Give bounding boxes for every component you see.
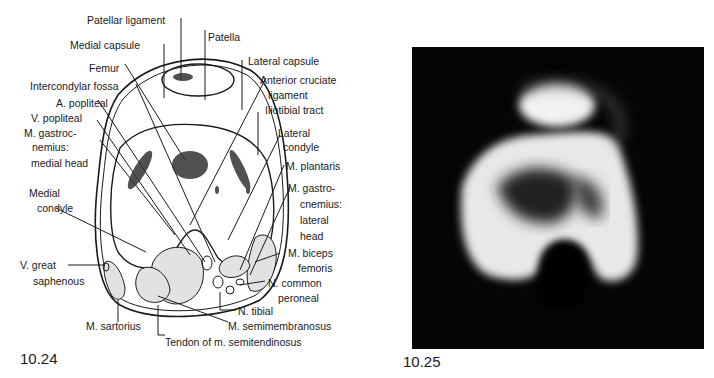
label-gastrocnemius-lateral-4: head bbox=[300, 230, 323, 242]
label-anterior-cruciate-2: ligament bbox=[268, 89, 308, 101]
label-m-plantaris: M. plantaris bbox=[286, 160, 340, 172]
label-m-sartorius: M. sartorius bbox=[86, 320, 141, 332]
label-v-great-saphenous-2: saphenous bbox=[33, 275, 84, 287]
label-patellar-ligament: Patellar ligament bbox=[87, 14, 165, 26]
label-lateral-condyle-2: condyle bbox=[283, 141, 319, 153]
label-gastrocnemius-medial-2: nemius: bbox=[32, 141, 69, 153]
label-gastrocnemius-medial-1: M. gastroc- bbox=[24, 127, 77, 139]
label-tendon-semitendinosus: Tendon of m. semitendinosus bbox=[165, 336, 302, 348]
label-v-great-saphenous-1: V. great bbox=[20, 259, 56, 271]
label-lateral-capsule: Lateral capsule bbox=[248, 55, 319, 67]
label-gastrocnemius-lateral-1: M. gastro- bbox=[288, 182, 335, 194]
label-femur: Femur bbox=[89, 62, 119, 74]
label-biceps-femoris-1: M. biceps bbox=[288, 247, 333, 259]
figure-number-left: 10.24 bbox=[20, 350, 58, 367]
label-lateral-condyle-1: Lateral bbox=[278, 127, 310, 139]
figure-number-right: 10.25 bbox=[403, 353, 441, 370]
label-intercondylar-fossa: Intercondylar fossa bbox=[30, 80, 119, 92]
label-a-popliteal: A. popliteal bbox=[56, 97, 108, 109]
label-medial-capsule: Medial capsule bbox=[70, 39, 140, 51]
label-gastrocnemius-lateral-3: lateral bbox=[300, 214, 329, 226]
label-biceps-femoris-2: femoris bbox=[298, 262, 332, 274]
label-anterior-cruciate-1: Anterior cruciate bbox=[260, 74, 336, 86]
anatomical-diagram-figure: Patellar ligament Patella Medial capsule… bbox=[0, 0, 370, 378]
label-n-common-peroneal-1: N. common bbox=[268, 277, 322, 289]
label-medial-condyle-2: condyle bbox=[37, 202, 73, 214]
label-gastrocnemius-medial-3: medial head bbox=[31, 157, 88, 169]
label-medial-condyle-1: Medial bbox=[29, 187, 60, 199]
label-patella: Patella bbox=[208, 31, 240, 43]
label-gastrocnemius-lateral-2: cnemius: bbox=[300, 198, 342, 210]
label-n-tibial: N. tibial bbox=[238, 305, 273, 317]
ct-scan-image bbox=[412, 47, 704, 349]
label-n-common-peroneal-2: peroneal bbox=[278, 292, 319, 304]
ct-knee-scan-rendering bbox=[412, 47, 704, 349]
label-m-semimembranosus: M. semimembranosus bbox=[228, 320, 331, 332]
label-iliotibial-tract: Iliotibial tract bbox=[265, 104, 323, 116]
label-v-popliteal: V. popliteal bbox=[31, 112, 82, 124]
